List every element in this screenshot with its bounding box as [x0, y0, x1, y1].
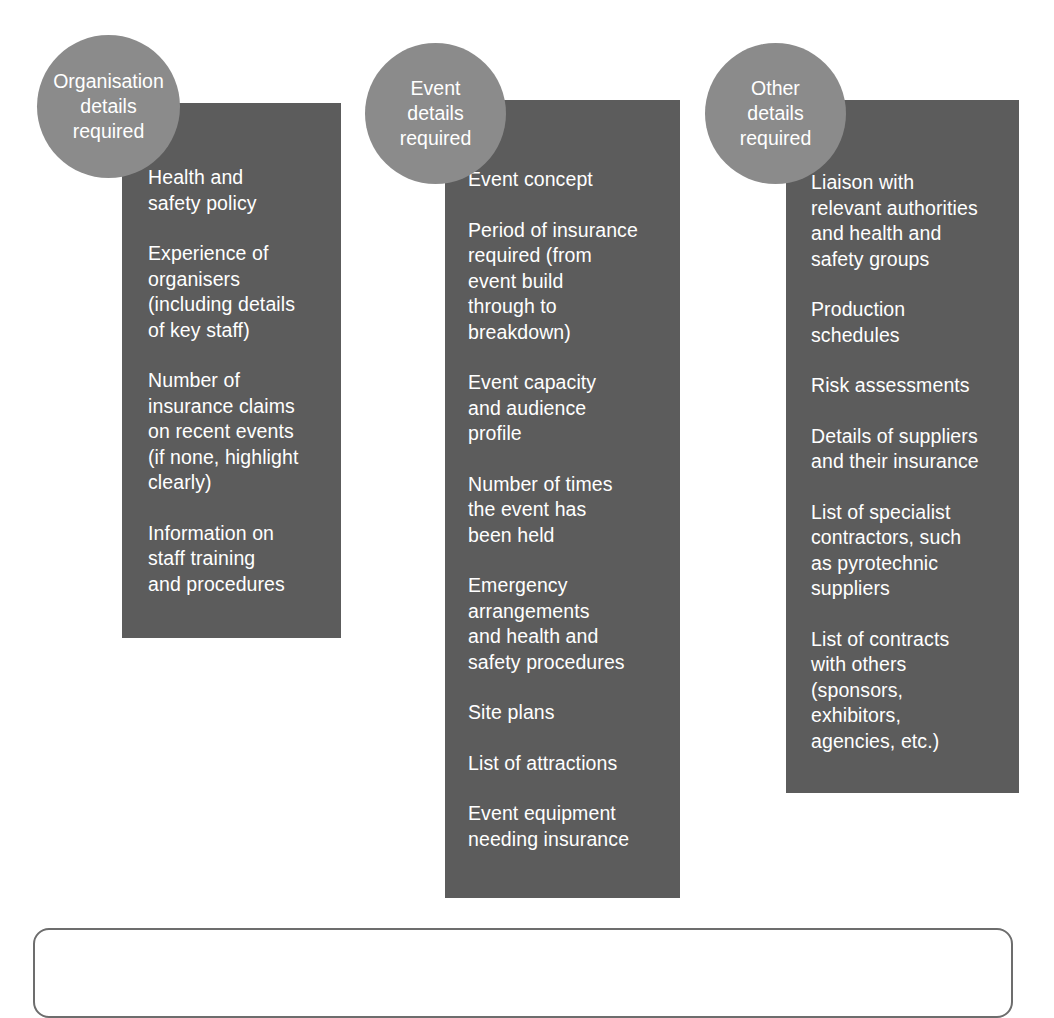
- list-item: Details of suppliers and their insurance: [811, 424, 1044, 475]
- badge-organisation-details: Organisation details required: [37, 35, 180, 178]
- organisation-details-list: Health and safety policy Experience of o…: [122, 103, 377, 622]
- list-item: List of contracts with others (sponsors,…: [811, 627, 1044, 755]
- badge-label: Event details required: [396, 76, 476, 151]
- list-item: Liaison with relevant authorities and he…: [811, 170, 1044, 272]
- badge-label: Other details required: [736, 76, 816, 151]
- list-item: Emergency arrangements and health and sa…: [468, 573, 703, 675]
- list-item: Risk assessments: [811, 373, 1044, 399]
- badge-label: Organisation details required: [49, 69, 168, 144]
- other-details-list: Liaison with relevant authorities and he…: [786, 100, 1050, 779]
- list-item: List of attractions: [468, 751, 703, 777]
- panel-other-details: Liaison with relevant authorities and he…: [786, 100, 1019, 793]
- list-item: Production schedules: [811, 297, 1044, 348]
- list-item: Health and safety policy: [148, 165, 367, 216]
- list-item: Information on staff training and proced…: [148, 521, 367, 598]
- bottom-note-frame: [33, 928, 1013, 1018]
- panel-event-details: Event concept Period of insurance requir…: [445, 100, 680, 898]
- badge-other-details: Other details required: [705, 43, 846, 184]
- list-item: Event concept: [468, 167, 703, 193]
- list-item: Number of insurance claims on recent eve…: [148, 368, 367, 496]
- list-item: Number of times the event has been held: [468, 472, 703, 549]
- list-item: Site plans: [468, 700, 703, 726]
- list-item: Event capacity and audience profile: [468, 370, 703, 447]
- event-details-list: Event concept Period of insurance requir…: [445, 100, 711, 877]
- list-item: Experience of organisers (including deta…: [148, 241, 367, 343]
- list-item: Event equipment needing insurance: [468, 801, 703, 852]
- list-item: List of specialist contractors, such as …: [811, 500, 1044, 602]
- panel-organisation-details: Health and safety policy Experience of o…: [122, 103, 341, 638]
- badge-event-details: Event details required: [365, 43, 506, 184]
- list-item: Period of insurance required (from event…: [468, 218, 703, 346]
